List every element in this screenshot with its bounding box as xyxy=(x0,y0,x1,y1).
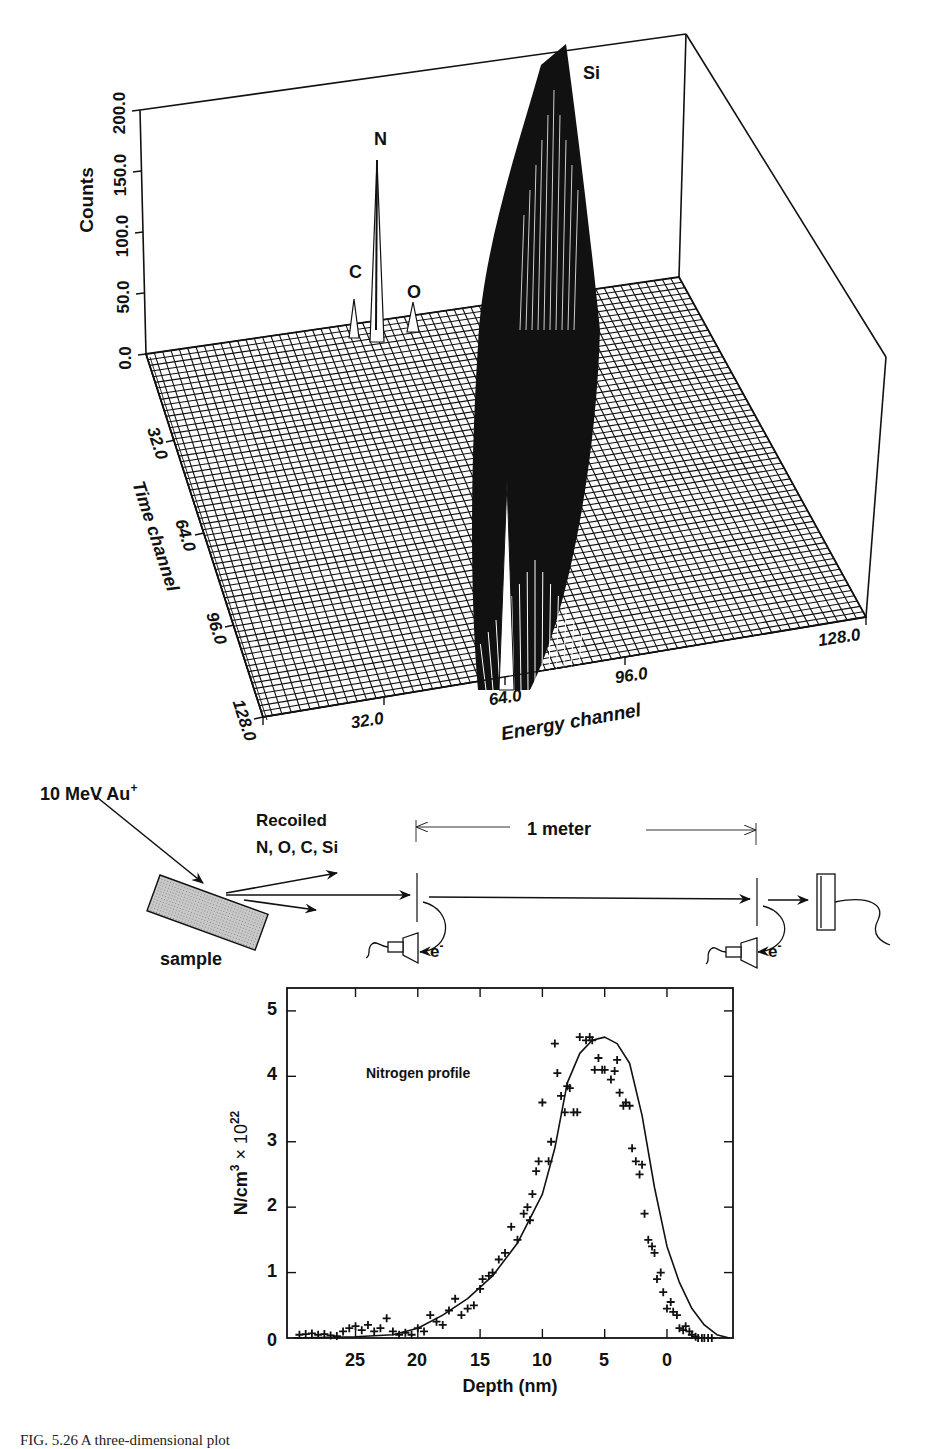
energy-tick-32: 32.0 xyxy=(349,709,385,733)
peak-label-o: O xyxy=(407,282,421,302)
counts-axis-label: Counts xyxy=(76,167,97,232)
recoil-label-line2: N, O, C, Si xyxy=(256,838,338,857)
sample-block xyxy=(147,875,268,950)
profile-ticks xyxy=(287,988,733,1338)
x-tick-25: 25 xyxy=(345,1350,365,1370)
recoil-arrow-upper xyxy=(226,873,337,893)
counts-tick-150: 150.0 xyxy=(111,154,130,197)
y-tick-1: 1 xyxy=(267,1261,277,1281)
x-tick-0: 0 xyxy=(662,1350,672,1370)
nitrogen-profile-plot: 25 20 15 10 5 0 0 1 2 3 4 5 Depth (nm) N… xyxy=(228,988,733,1396)
time-tick-32: 32.0 xyxy=(143,425,171,463)
distance-label: 1 meter xyxy=(527,819,591,839)
flight-path-arrow xyxy=(429,897,750,899)
time-tick-128: 128.0 xyxy=(229,697,260,744)
y-tick-4: 4 xyxy=(267,1064,277,1084)
electron-label-stop: e- xyxy=(768,939,781,961)
recoil-label-line1: Recoiled xyxy=(256,811,327,830)
counts-tick-0: 0.0 xyxy=(116,346,135,370)
time-tick-64: 64.0 xyxy=(171,517,199,555)
x-tick-5: 5 xyxy=(599,1350,609,1370)
x-tick-20: 20 xyxy=(407,1350,427,1370)
nitrogen-profile-annotation: Nitrogen profile xyxy=(366,1065,470,1081)
plot-frame xyxy=(287,988,733,1338)
peak-label-c: C xyxy=(349,262,362,282)
energy-tick-96: 96.0 xyxy=(613,664,649,688)
energy-detector xyxy=(817,874,890,945)
y-tick-0: 0 xyxy=(267,1330,277,1350)
surface-plot-3d: 0.0 50.0 100.0 150.0 200.0 Counts 32.0 6… xyxy=(76,34,886,744)
electron-label-start: e- xyxy=(430,939,443,961)
tof-schematic: 10 MeV Au+ sample Recoiled N, O, C, Si 1… xyxy=(40,781,890,969)
x-tick-15: 15 xyxy=(470,1350,490,1370)
beam-arrow xyxy=(93,794,203,883)
counts-axis xyxy=(132,110,146,355)
y-tick-5: 5 xyxy=(267,999,277,1019)
figure-caption: FIG. 5.26 A three-dimensional plot xyxy=(20,1432,230,1449)
data-points xyxy=(295,1033,715,1342)
time-tick-96: 96.0 xyxy=(202,610,230,648)
sample-label: sample xyxy=(160,949,222,969)
recoil-arrow-lower xyxy=(244,900,316,910)
x-axis-label: Depth (nm) xyxy=(463,1376,558,1396)
peak-label-si: Si xyxy=(583,63,600,83)
energy-axis-label: Energy channel xyxy=(499,699,643,744)
time-axis-label: Time channel xyxy=(128,479,183,595)
energy-tick-128: 128.0 xyxy=(817,625,863,651)
energy-axis xyxy=(263,617,866,725)
y-tick-2: 2 xyxy=(267,1195,277,1215)
y-axis-label: N/cm3 × 1022 xyxy=(228,1110,251,1215)
peak-label-n: N xyxy=(374,129,387,149)
beam-label: 10 MeV Au+ xyxy=(40,781,137,804)
y-tick-3: 3 xyxy=(267,1130,277,1150)
counts-tick-200: 200.0 xyxy=(110,92,129,135)
counts-tick-50: 50.0 xyxy=(114,280,133,313)
counts-tick-100: 100.0 xyxy=(113,215,132,258)
energy-tick-64: 64.0 xyxy=(487,686,523,710)
x-tick-10: 10 xyxy=(532,1350,552,1370)
